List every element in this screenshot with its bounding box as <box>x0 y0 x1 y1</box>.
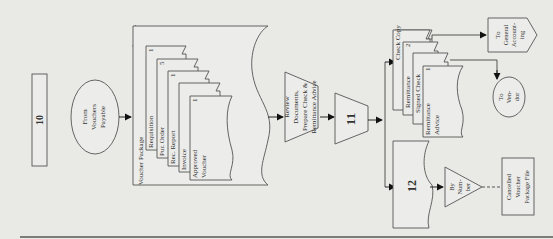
to-vendor-line-2: Ven- <box>505 91 512 103</box>
review-line-3: Prepare Check & <box>301 82 309 131</box>
doc-remittance-advice-1: Remittance <box>424 103 432 135</box>
document-12-label: 12 <box>405 180 419 192</box>
cancelled-line-3: Package File <box>523 170 530 204</box>
doc-receiving-report-copy: 1 <box>169 73 177 77</box>
cancelled-line-1: Cancelled <box>505 173 512 200</box>
doc-invoice: Invoice <box>180 149 188 170</box>
doc-remittance-advice-copy: 1 <box>424 67 432 71</box>
doc-approved-voucher-copy: 1 <box>191 98 199 102</box>
step-10-label: 10 <box>34 115 45 125</box>
review-line-1: Review <box>283 95 291 117</box>
doc-check-copy: Check Copy <box>394 25 402 60</box>
cancelled-line-2: Voucher <box>514 175 521 197</box>
doc-approved-voucher-1: Approved <box>191 150 199 178</box>
by-number-line-1: By <box>448 182 455 190</box>
by-number-line-2: Num- <box>456 179 463 194</box>
doc-remittance-advice-2: Advice <box>433 115 441 135</box>
voucher-package-title: Voucher Package <box>137 137 145 185</box>
to-vendor-line-3: dor <box>513 92 520 102</box>
to-vendor-line-1: To <box>497 94 504 101</box>
doc-approved-voucher-2: Voucher <box>200 154 208 178</box>
review-line-2: Documents, <box>292 90 300 124</box>
review-line-4: Remittance Advice <box>310 80 318 133</box>
doc-receiving-report: Rec. Report <box>169 131 177 164</box>
flowchart-diagram: 10 From Vouchers Payable Voucher Package… <box>0 0 553 239</box>
from-line-3: Payable <box>99 106 107 128</box>
by-number-line-3: ber <box>464 182 471 191</box>
doc-purchase-order-copy: 5 <box>158 61 166 65</box>
to-ga-line-2: General <box>502 25 509 46</box>
doc-purchase-order: Pur. Order <box>158 126 166 156</box>
from-line-1: From <box>81 109 89 125</box>
doc-remittance-copy: 2 <box>404 43 412 47</box>
doc-remittance: Remittance <box>404 76 412 108</box>
to-ga-line-3: Account- <box>510 23 517 47</box>
to-ga-line-1: To <box>494 32 501 39</box>
to-ga-line-4: ing <box>518 30 525 39</box>
doc-requisition: Requisition <box>147 115 155 148</box>
doc-signed-check: Signed Check <box>414 73 422 113</box>
doc-requisition-copy: 1 <box>147 48 155 52</box>
from-line-2: Vouchers <box>90 104 98 130</box>
process-11-label: 11 <box>343 113 358 125</box>
